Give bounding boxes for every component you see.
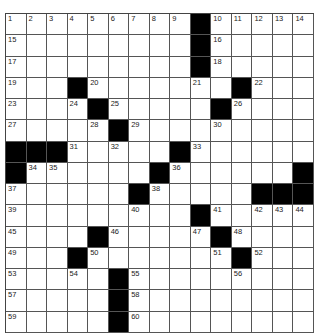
grid-cell[interactable]: 4 [68, 14, 89, 35]
grid-cell[interactable]: 23 [6, 99, 27, 120]
grid-cell[interactable] [170, 290, 191, 311]
grid-cell[interactable] [211, 184, 232, 205]
grid-cell[interactable] [252, 99, 273, 120]
grid-cell[interactable] [27, 312, 48, 333]
grid-cell[interactable] [88, 269, 109, 290]
grid-cell[interactable]: 36 [170, 163, 191, 184]
grid-cell[interactable]: 56 [232, 269, 253, 290]
grid-cell[interactable] [232, 163, 253, 184]
grid-cell[interactable] [252, 312, 273, 333]
grid-cell[interactable]: 17 [6, 57, 27, 78]
grid-cell[interactable] [68, 205, 89, 226]
grid-cell[interactable]: 55 [129, 269, 150, 290]
grid-cell[interactable] [129, 57, 150, 78]
grid-cell[interactable]: 32 [109, 142, 130, 163]
grid-cell[interactable] [252, 120, 273, 141]
grid-cell[interactable] [170, 78, 191, 99]
grid-cell[interactable] [88, 312, 109, 333]
grid-cell[interactable] [150, 78, 171, 99]
grid-cell[interactable] [232, 142, 253, 163]
grid-cell[interactable] [27, 248, 48, 269]
grid-cell[interactable] [47, 227, 68, 248]
grid-cell[interactable] [293, 142, 314, 163]
grid-cell[interactable] [191, 163, 212, 184]
grid-cell[interactable] [47, 78, 68, 99]
grid-cell[interactable] [293, 99, 314, 120]
grid-cell[interactable] [232, 120, 253, 141]
grid-cell[interactable] [252, 269, 273, 290]
grid-cell[interactable] [252, 163, 273, 184]
grid-cell[interactable] [150, 142, 171, 163]
grid-cell[interactable]: 30 [211, 120, 232, 141]
grid-cell[interactable] [191, 120, 212, 141]
grid-cell[interactable]: 10 [211, 14, 232, 35]
grid-cell[interactable]: 52 [252, 248, 273, 269]
grid-cell[interactable]: 51 [211, 248, 232, 269]
grid-cell[interactable] [88, 205, 109, 226]
grid-cell[interactable]: 16 [211, 35, 232, 56]
grid-cell[interactable] [150, 35, 171, 56]
grid-cell[interactable] [170, 120, 191, 141]
grid-cell[interactable] [273, 78, 294, 99]
grid-cell[interactable]: 45 [6, 227, 27, 248]
grid-cell[interactable] [88, 142, 109, 163]
grid-cell[interactable]: 7 [129, 14, 150, 35]
grid-cell[interactable] [232, 312, 253, 333]
grid-cell[interactable] [170, 184, 191, 205]
grid-cell[interactable] [47, 248, 68, 269]
grid-cell[interactable] [68, 227, 89, 248]
grid-cell[interactable] [47, 99, 68, 120]
grid-cell[interactable] [27, 290, 48, 311]
grid-cell[interactable] [150, 248, 171, 269]
grid-cell[interactable] [211, 142, 232, 163]
grid-cell[interactable] [68, 312, 89, 333]
grid-cell[interactable] [27, 184, 48, 205]
grid-cell[interactable] [191, 248, 212, 269]
grid-cell[interactable]: 37 [6, 184, 27, 205]
grid-cell[interactable] [252, 142, 273, 163]
grid-cell[interactable]: 19 [6, 78, 27, 99]
grid-cell[interactable]: 47 [191, 227, 212, 248]
grid-cell[interactable]: 41 [211, 205, 232, 226]
grid-cell[interactable] [129, 227, 150, 248]
grid-cell[interactable] [273, 99, 294, 120]
grid-cell[interactable] [252, 35, 273, 56]
grid-cell[interactable] [129, 99, 150, 120]
grid-cell[interactable] [68, 290, 89, 311]
grid-cell[interactable] [293, 290, 314, 311]
grid-cell[interactable]: 18 [211, 57, 232, 78]
grid-cell[interactable]: 13 [273, 14, 294, 35]
grid-cell[interactable] [211, 163, 232, 184]
grid-cell[interactable] [252, 290, 273, 311]
grid-cell[interactable] [129, 163, 150, 184]
grid-cell[interactable]: 9 [170, 14, 191, 35]
grid-cell[interactable] [150, 205, 171, 226]
grid-cell[interactable] [293, 120, 314, 141]
grid-cell[interactable] [88, 57, 109, 78]
grid-cell[interactable] [211, 269, 232, 290]
grid-cell[interactable]: 24 [68, 99, 89, 120]
grid-cell[interactable] [232, 57, 253, 78]
grid-cell[interactable]: 49 [6, 248, 27, 269]
grid-cell[interactable]: 38 [150, 184, 171, 205]
grid-cell[interactable] [150, 269, 171, 290]
grid-cell[interactable] [109, 184, 130, 205]
grid-cell[interactable]: 21 [191, 78, 212, 99]
grid-cell[interactable] [211, 290, 232, 311]
grid-cell[interactable] [273, 227, 294, 248]
grid-cell[interactable] [191, 312, 212, 333]
grid-cell[interactable] [170, 35, 191, 56]
grid-cell[interactable]: 46 [109, 227, 130, 248]
grid-cell[interactable]: 53 [6, 269, 27, 290]
grid-cell[interactable] [273, 312, 294, 333]
grid-cell[interactable]: 14 [293, 14, 314, 35]
grid-cell[interactable] [211, 78, 232, 99]
grid-cell[interactable] [27, 99, 48, 120]
grid-cell[interactable] [88, 184, 109, 205]
grid-cell[interactable]: 40 [129, 205, 150, 226]
grid-cell[interactable] [252, 57, 273, 78]
grid-cell[interactable] [68, 57, 89, 78]
grid-cell[interactable] [27, 78, 48, 99]
grid-cell[interactable]: 1 [6, 14, 27, 35]
grid-cell[interactable]: 6 [109, 14, 130, 35]
